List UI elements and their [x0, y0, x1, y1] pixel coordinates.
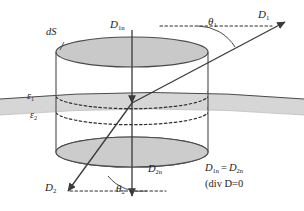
label-d1n-top: D1n — [110, 19, 125, 32]
theta1-arc — [198, 26, 235, 47]
figure-canvas: dS D1n θ1 D1 ε1 ε2 D2 θ2 D2n D1n=D2n (di… — [0, 0, 304, 211]
label-eq-right-sub: 2n — [237, 167, 244, 174]
label-d1-vector: D1 — [258, 9, 269, 22]
label-d2-base: D — [45, 181, 53, 193]
label-d1-base: D — [258, 8, 266, 20]
label-equation-d1n-equals-d2n: D1n=D2n — [205, 163, 243, 174]
label-d2-vector: D2 — [45, 182, 56, 195]
label-theta2: θ2 — [116, 183, 125, 196]
label-eps2-sub: 2 — [34, 114, 37, 121]
label-d2n-bottom: D2n — [148, 164, 162, 175]
label-theta2-sub: 2 — [121, 188, 124, 195]
label-theta1-sub: 1 — [213, 21, 216, 28]
label-epsilon1: ε1 — [27, 91, 34, 102]
label-eq-equals: = — [221, 162, 227, 173]
label-div-text: (div D=0 — [205, 178, 243, 189]
label-d2-sub: 2 — [53, 187, 56, 194]
label-d1n-base: D — [110, 18, 118, 30]
label-surface-element: dS — [46, 27, 57, 38]
label-eq-right-base: D — [229, 162, 237, 173]
label-theta1: θ1 — [208, 16, 217, 29]
label-eq-left-base: D — [205, 162, 213, 173]
theta2-arc — [108, 176, 147, 191]
label-eps1-sub: 1 — [31, 95, 34, 102]
label-divergence-note: (div D=0 — [205, 179, 243, 190]
label-d2n-base: D — [148, 163, 156, 174]
label-eq-left-sub: 1n — [213, 167, 220, 174]
label-d1-sub: 1 — [266, 14, 269, 21]
label-d2n-sub: 2n — [156, 168, 163, 175]
label-d1n-sub: 1n — [118, 24, 125, 31]
label-epsilon2: ε2 — [30, 110, 37, 121]
label-ds-base: dS — [46, 26, 57, 37]
